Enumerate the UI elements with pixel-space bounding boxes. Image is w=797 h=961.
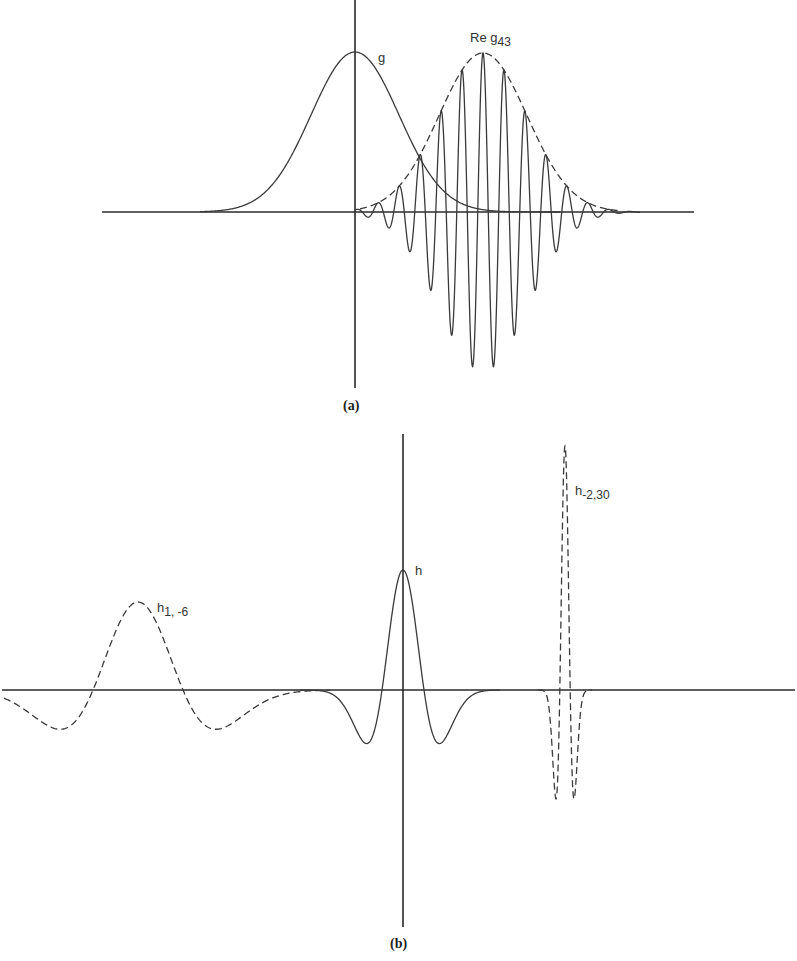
curve-g43-envelope [360,53,620,211]
label-h-minus2-30: h-2,30 [575,483,610,502]
label-h: h [415,563,422,578]
curve-h-1-minus6 [4,602,330,729]
label-re-g43: Re g43 [470,30,511,49]
panel-b [2,434,795,927]
curve-h [300,570,500,744]
curve-re-g43 [355,53,640,367]
caption-a: (a) [343,398,359,414]
curve-g [200,52,560,212]
figure-canvas [0,0,797,961]
caption-b: (b) [390,936,407,952]
label-h-1-minus6: h1, -6 [157,600,188,619]
label-g: g [378,50,385,65]
panel-a [102,0,694,388]
